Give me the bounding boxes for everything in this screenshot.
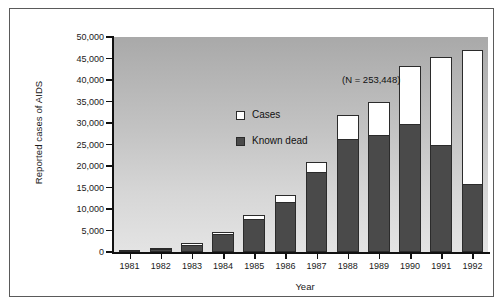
x-tick-mark-1992 (472, 254, 474, 259)
x-tick-mark-1989 (379, 254, 381, 259)
x-tick-mark-1983 (192, 254, 194, 259)
figure: Reported cases of AIDS Year Cases Known … (0, 0, 503, 306)
bar-segment-known-dead-1985 (243, 219, 265, 252)
bar-segment-known-dead-1986 (275, 202, 297, 252)
y-tick-label-45000: 45,000 (76, 53, 104, 65)
bar-1983 (181, 243, 203, 252)
y-tick-label-15000: 15,000 (76, 182, 104, 194)
bar-segment-known-dead-1990 (399, 124, 421, 252)
bar-1988 (337, 115, 359, 252)
y-tick-0: 0 (50, 246, 112, 258)
y-tick-label-25000: 25,000 (76, 139, 104, 151)
plot-area: Cases Known dead (N = 253,448) (114, 37, 488, 252)
x-tick-mark-1990 (410, 254, 412, 259)
y-tick-mark-45000 (106, 58, 112, 60)
legend-label-known-dead: Known dead (252, 134, 308, 148)
x-tick-mark-1988 (348, 254, 350, 259)
bar-1992 (462, 50, 484, 252)
figure-frame: Reported cases of AIDS Year Cases Known … (9, 8, 494, 297)
x-tick-mark-1981 (130, 254, 132, 259)
bar-1987 (306, 162, 328, 252)
legend-swatch-known-dead-icon (236, 137, 245, 146)
bar-segment-known-dead-1992 (462, 184, 484, 252)
x-tick-mark-1986 (285, 254, 287, 259)
y-tick-mark-0 (106, 251, 112, 253)
legend-label-cases: Cases (252, 108, 280, 122)
y-tick-label-20000: 20,000 (76, 160, 104, 172)
y-tick-10000: 10,000 (50, 203, 112, 215)
y-tick-mark-35000 (106, 101, 112, 103)
bar-1990 (399, 66, 421, 252)
bar-segment-known-dead-1991 (430, 145, 452, 252)
bar-1991 (430, 57, 452, 252)
y-tick-40000: 40,000 (50, 74, 112, 86)
y-tick-mark-50000 (106, 36, 112, 38)
y-tick-label-40000: 40,000 (76, 74, 104, 86)
legend-swatch-cases-icon (236, 111, 245, 120)
y-tick-label-30000: 30,000 (76, 117, 104, 129)
bar-segment-known-dead-1987 (306, 172, 328, 252)
y-tick-mark-30000 (106, 122, 112, 124)
x-axis-line (112, 252, 490, 254)
y-tick-mark-15000 (106, 187, 112, 189)
x-tick-mark-1982 (161, 254, 163, 259)
bar-1984 (212, 232, 234, 252)
y-axis-line (112, 36, 114, 253)
bar-segment-known-dead-1983 (181, 245, 203, 252)
bar-1985 (243, 215, 265, 252)
x-tick-label-1992: 1992 (452, 261, 492, 271)
bar-segment-known-dead-1989 (368, 135, 390, 252)
x-tick-mark-1984 (223, 254, 225, 259)
sample-size-annotation: (N = 253,448) (342, 74, 400, 85)
bar-segment-known-dead-1988 (337, 139, 359, 252)
bar-1986 (275, 195, 297, 252)
y-tick-mark-25000 (106, 144, 112, 146)
y-tick-35000: 35,000 (50, 96, 112, 108)
y-tick-label-5000: 5,000 (81, 225, 104, 237)
x-tick-mark-1985 (254, 254, 256, 259)
y-tick-mark-5000 (106, 230, 112, 232)
y-tick-mark-40000 (106, 79, 112, 81)
y-tick-label-0: 0 (99, 246, 104, 258)
y-tick-25000: 25,000 (50, 139, 112, 151)
x-axis-title: Year (120, 281, 490, 292)
y-tick-20000: 20,000 (50, 160, 112, 172)
y-tick-45000: 45,000 (50, 53, 112, 65)
bar-segment-known-dead-1984 (212, 234, 234, 252)
y-tick-5000: 5,000 (50, 225, 112, 237)
y-tick-30000: 30,000 (50, 117, 112, 129)
y-axis-title: Reported cases of AIDS (33, 43, 44, 223)
y-tick-mark-20000 (106, 165, 112, 167)
y-tick-mark-10000 (106, 208, 112, 210)
y-tick-label-35000: 35,000 (76, 96, 104, 108)
x-tick-mark-1991 (441, 254, 443, 259)
bar-1989 (368, 102, 390, 253)
y-tick-label-50000: 50,000 (76, 31, 104, 43)
y-tick-15000: 15,000 (50, 182, 112, 194)
y-tick-50000: 50,000 (50, 31, 112, 43)
x-tick-mark-1987 (317, 254, 319, 259)
y-tick-label-10000: 10,000 (76, 203, 104, 215)
